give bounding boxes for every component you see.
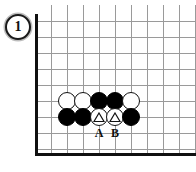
figure-number-badge: 1 <box>5 14 31 40</box>
grid-line-vertical <box>179 5 180 153</box>
board-point-label: B <box>107 127 123 139</box>
triangle-marker-icon <box>109 112 121 123</box>
board-left-edge <box>35 14 38 156</box>
grid-line-vertical <box>163 5 164 153</box>
grid-line-vertical <box>67 5 68 153</box>
go-diagram-screenshot: AB 1 <box>0 0 196 172</box>
triangle-marker-icon <box>93 112 105 123</box>
grid-line-vertical <box>147 5 148 153</box>
figure-number-label: 1 <box>15 20 22 34</box>
grid-line-vertical <box>131 5 132 153</box>
grid-line-vertical <box>51 5 52 153</box>
grid-line-vertical <box>83 5 84 153</box>
go-stone-black[interactable] <box>122 108 140 126</box>
board-bottom-edge <box>35 153 196 156</box>
board-point-label: A <box>91 127 107 139</box>
grid-line-vertical <box>195 5 196 153</box>
